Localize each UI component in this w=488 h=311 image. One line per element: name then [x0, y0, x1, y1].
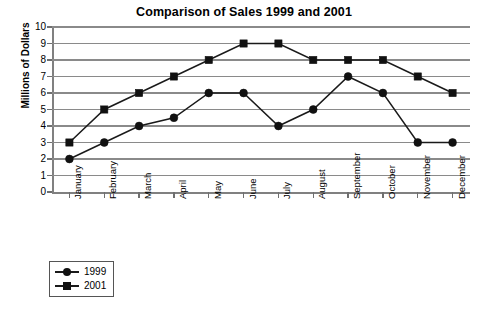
y-tick-label: 1	[24, 171, 46, 181]
data-point-2001-March	[135, 89, 142, 96]
x-tick-mark	[417, 192, 418, 198]
x-tick-mark	[382, 192, 383, 198]
data-point-2001-May	[205, 56, 212, 63]
data-point-1999-September	[344, 73, 352, 81]
y-tick-label: 3	[24, 138, 46, 148]
x-tick-mark	[138, 192, 139, 198]
x-tick-mark	[347, 192, 348, 198]
legend-item-1999: 1999	[54, 265, 106, 279]
y-axis-label: Millions of Dollars	[20, 0, 31, 136]
data-point-2001-October	[379, 56, 386, 63]
x-tick-mark	[278, 192, 279, 198]
x-tick-mark	[243, 192, 244, 198]
legend-marker-circle-icon	[54, 266, 80, 278]
y-tick-label: 8	[24, 55, 46, 65]
data-point-2001-August	[310, 56, 317, 63]
y-tick-label: 6	[24, 88, 46, 98]
x-tick-mark	[173, 192, 174, 198]
chart-title: Comparison of Sales 1999 and 2001	[0, 5, 488, 19]
series-group	[52, 27, 470, 192]
chart-container: Comparison of Sales 1999 and 2001 Millio…	[0, 0, 488, 311]
data-point-2001-July	[275, 40, 282, 47]
y-tick-label: 2	[24, 154, 46, 164]
data-point-2001-June	[240, 40, 247, 47]
data-point-1999-January	[66, 155, 74, 163]
data-point-1999-July	[275, 122, 283, 130]
data-point-2001-December	[449, 89, 456, 96]
data-point-1999-May	[205, 89, 213, 97]
legend-label: 2001	[80, 281, 106, 291]
plot-area: 109876543210 JanuaryFebruaryMarchAprilMa…	[52, 27, 470, 192]
x-tick-mark	[452, 192, 453, 198]
data-point-1999-November	[414, 139, 422, 147]
data-point-2001-November	[414, 73, 421, 80]
data-point-1999-October	[379, 89, 387, 97]
legend-label: 1999	[80, 267, 106, 277]
y-tick-label: 0	[24, 187, 46, 197]
legend-marker-square-icon	[54, 280, 80, 292]
data-point-2001-January	[66, 139, 73, 146]
x-tick-mark	[313, 192, 314, 198]
data-point-2001-April	[170, 73, 177, 80]
y-tick-label: 10	[24, 22, 46, 32]
x-tick-mark	[208, 192, 209, 198]
y-tick-label: 7	[24, 72, 46, 82]
data-point-1999-December	[449, 139, 457, 147]
y-tick-label: 4	[24, 121, 46, 131]
data-point-2001-September	[344, 56, 351, 63]
data-point-1999-June	[240, 89, 248, 97]
legend-item-2001: 2001	[54, 279, 106, 293]
series-line-2001	[69, 44, 452, 143]
x-tick-mark	[69, 192, 70, 198]
data-point-1999-August	[309, 106, 317, 114]
y-tick-label: 9	[24, 39, 46, 49]
data-point-1999-February	[100, 139, 108, 147]
chart-legend: 19992001	[49, 261, 114, 297]
data-point-1999-March	[135, 122, 143, 130]
data-point-1999-April	[170, 114, 178, 122]
data-point-2001-February	[101, 106, 108, 113]
y-tick-label: 5	[24, 105, 46, 115]
series-line-1999	[69, 77, 452, 160]
x-tick-mark	[104, 192, 105, 198]
